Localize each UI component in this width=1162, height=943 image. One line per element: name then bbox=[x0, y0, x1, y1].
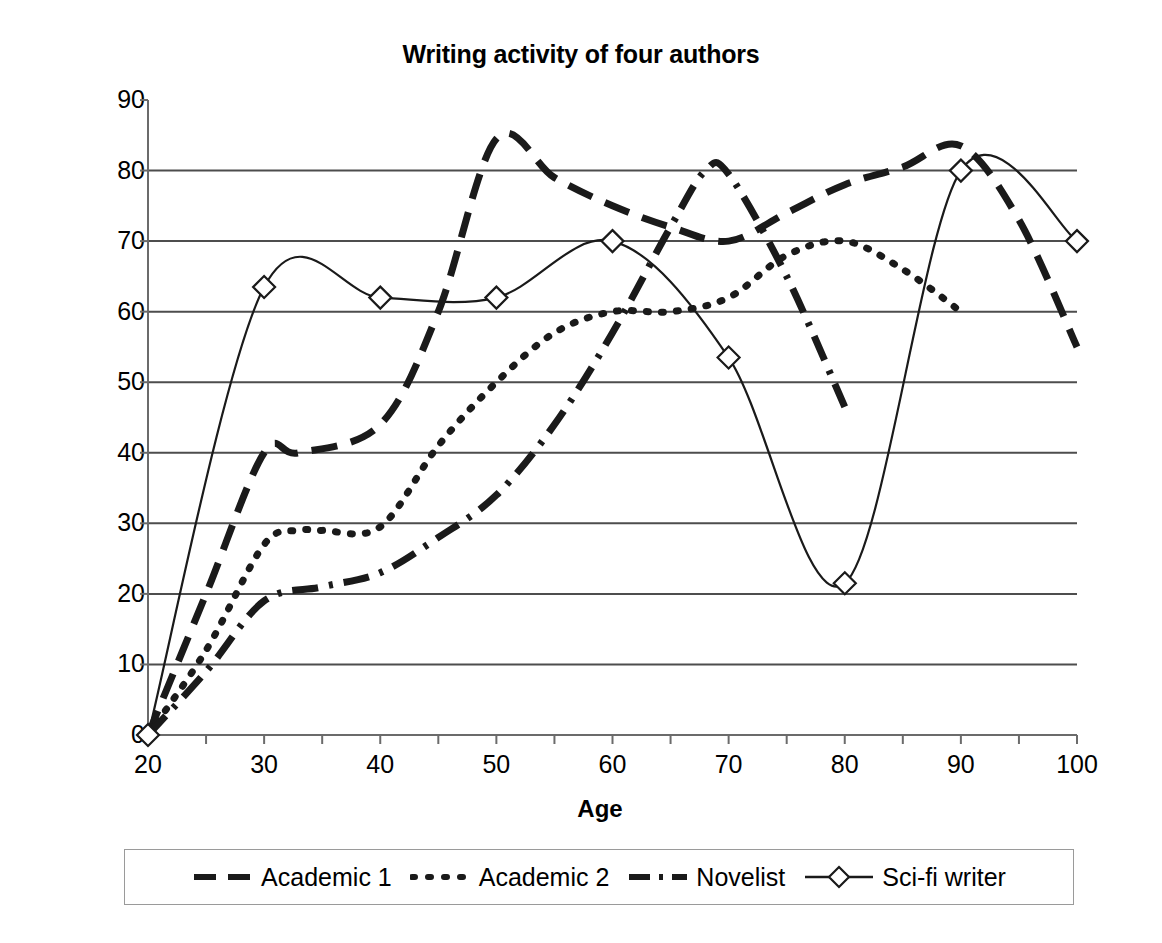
legend-item-sci-fi-writer[interactable]: Sci-fi writer bbox=[794, 864, 1015, 890]
legend-item-academic-1[interactable]: Academic 1 bbox=[183, 864, 401, 890]
x-axis-title: Age bbox=[140, 795, 1060, 823]
data-series-layer bbox=[137, 133, 1088, 746]
legend-item-label: Academic 2 bbox=[479, 865, 610, 890]
data-point-marker-diamond bbox=[369, 287, 391, 309]
data-point-marker-diamond bbox=[253, 276, 275, 298]
chart-legend: Academic 1Academic 2NovelistSci-fi write… bbox=[124, 849, 1074, 905]
data-point-marker-diamond bbox=[485, 287, 507, 309]
legend-item-label: Academic 1 bbox=[261, 865, 392, 890]
data-point-marker-diamond bbox=[834, 572, 856, 594]
legend-item-label: Novelist bbox=[696, 865, 785, 890]
data-point-marker-diamond bbox=[602, 230, 624, 252]
series-line-novelist bbox=[148, 162, 845, 735]
legend-item-academic-2[interactable]: Academic 2 bbox=[401, 864, 619, 890]
solid-line-diamond-icon bbox=[803, 864, 875, 890]
axis-ticks bbox=[140, 100, 1077, 744]
dash-dot-line-icon bbox=[627, 864, 689, 890]
dotted-line-icon bbox=[410, 864, 472, 890]
legend-item-label: Sci-fi writer bbox=[882, 865, 1006, 890]
long-dash-line-icon bbox=[192, 864, 254, 890]
series-line-academic-1 bbox=[148, 133, 1077, 735]
legend-item-novelist[interactable]: Novelist bbox=[618, 864, 794, 890]
series-line-academic-2 bbox=[148, 241, 961, 735]
chart-container: Writing activity of four authors Writing… bbox=[0, 0, 1162, 943]
axis-lines bbox=[148, 100, 1077, 735]
data-point-marker-diamond bbox=[718, 347, 740, 369]
